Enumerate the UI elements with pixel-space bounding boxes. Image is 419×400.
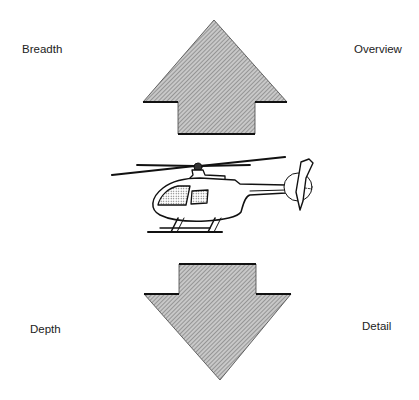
label-breadth: Breadth [22, 43, 62, 55]
helicopter-icon [112, 157, 313, 232]
down-arrow-icon [144, 264, 291, 380]
diagram-canvas [0, 0, 419, 400]
label-overview: Overview [354, 43, 402, 55]
up-arrow-icon [143, 20, 287, 134]
label-depth: Depth [30, 323, 61, 335]
label-detail: Detail [362, 320, 391, 332]
